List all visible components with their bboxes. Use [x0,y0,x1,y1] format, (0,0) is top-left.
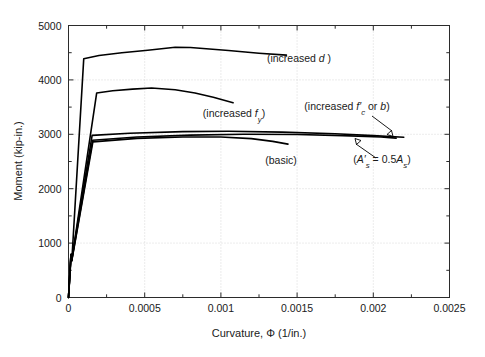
x-tick-label: 0.0025 [433,302,465,314]
y-axis-title: Moment (kip-in.) [12,121,24,200]
annot-basic: (basic) [265,154,297,166]
annot-increased-d: (increased d ) [267,52,331,64]
x-tick-label: 0.0005 [129,302,161,314]
y-tick-label: 1000 [38,237,62,249]
chart-background [0,0,485,357]
y-tick-label: 3000 [38,128,62,140]
x-tick-label: 0 [66,302,72,314]
x-tick-label: 0.0015 [281,302,313,314]
y-tick-label: 4000 [38,74,62,86]
moment-curvature-chart: 00.00050.0010.00150.0020.0025 0100020003… [0,0,485,357]
x-tick-label: 0.002 [360,302,386,314]
y-tick-label: 0 [56,292,62,304]
y-tick-label: 2000 [38,183,62,195]
y-tick-label: 5000 [38,20,62,32]
chart-canvas: 00.00050.0010.00150.0020.0025 0100020003… [0,0,485,357]
x-axis-title: Curvature, Φ (1/in.) [212,327,306,339]
x-tick-label: 0.001 [208,302,234,314]
